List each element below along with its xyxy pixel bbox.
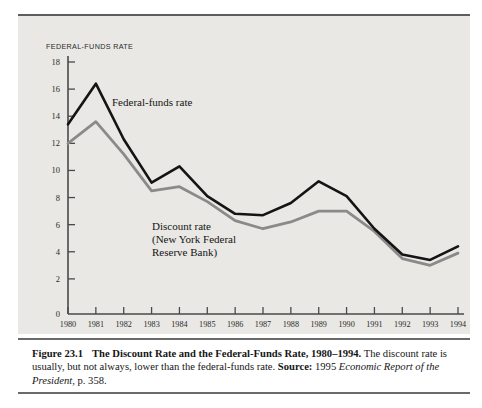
x-tick-label: 1982 bbox=[116, 320, 132, 329]
y-tick-label: 14 bbox=[52, 111, 61, 121]
x-tick-label: 1988 bbox=[283, 320, 299, 329]
x-tick-label: 1991 bbox=[366, 320, 382, 329]
x-tick-label: 1981 bbox=[88, 320, 104, 329]
x-tick-label: 1989 bbox=[311, 320, 327, 329]
y-tick-label: 6 bbox=[56, 220, 60, 230]
figure-caption-block: Figure 23.1The Discount Rate and the Fed… bbox=[18, 338, 470, 394]
x-tick-label: 1980 bbox=[60, 320, 76, 329]
series-line bbox=[68, 84, 458, 260]
plot-area: FEDERAL-FUNDS RATE 246810121416180 19801… bbox=[18, 16, 470, 334]
y-tick-label: 16 bbox=[52, 84, 61, 94]
y-axis-title-group: FEDERAL-FUNDS RATE bbox=[46, 42, 133, 51]
y-axis-ticks: 246810121416180 bbox=[52, 57, 76, 319]
x-tick-label: 1984 bbox=[171, 320, 187, 329]
discount-rate-label-line1: Discount rate bbox=[152, 220, 211, 232]
figure-title: The Discount Rate and the Federal-Funds … bbox=[92, 348, 361, 359]
chart-panel: FEDERAL-FUNDS RATE 246810121416180 19801… bbox=[18, 14, 470, 334]
y-axis-title: FEDERAL-FUNDS RATE bbox=[46, 42, 133, 51]
x-tick-label: 1986 bbox=[227, 320, 243, 329]
line-chart: FEDERAL-FUNDS RATE 246810121416180 19801… bbox=[18, 16, 470, 334]
y-tick-label: 2 bbox=[56, 274, 60, 284]
source-year: 1995 bbox=[312, 361, 338, 372]
y-tick-label: 12 bbox=[52, 138, 61, 148]
series-annotations: Federal-funds rate Discount rate (New Yo… bbox=[112, 96, 236, 259]
figure-caption-text: Figure 23.1The Discount Rate and the Fed… bbox=[32, 347, 458, 387]
discount-rate-label-line3: Reserve Bank) bbox=[152, 246, 217, 259]
x-tick-label: 1992 bbox=[394, 320, 410, 329]
source-page: , p. 358. bbox=[72, 375, 106, 386]
federal-funds-rate-label: Federal-funds rate bbox=[112, 96, 192, 108]
figure-number: Figure 23.1 bbox=[32, 348, 83, 359]
x-tick-label: 1983 bbox=[143, 320, 159, 329]
chart-series bbox=[68, 84, 458, 266]
x-tick-label: 1985 bbox=[199, 320, 215, 329]
x-tick-label: 1993 bbox=[422, 320, 438, 329]
chart-axes bbox=[68, 56, 464, 314]
x-tick-label: 1987 bbox=[255, 320, 271, 329]
x-tick-label: 1990 bbox=[338, 320, 354, 329]
figure-page: FEDERAL-FUNDS RATE 246810121416180 19801… bbox=[0, 0, 482, 408]
source-label: Source: bbox=[278, 361, 313, 372]
x-axis-ticks: 1980198119821983198419851986198719881989… bbox=[60, 307, 466, 329]
y-tick-label: 10 bbox=[52, 165, 61, 175]
x-tick-label: 1994 bbox=[450, 320, 466, 329]
y-tick-label: 0 bbox=[56, 309, 60, 319]
y-tick-label: 8 bbox=[56, 193, 60, 203]
discount-rate-label-line2: (New York Federal bbox=[152, 233, 236, 246]
y-tick-label: 4 bbox=[56, 247, 61, 257]
y-tick-label: 18 bbox=[52, 57, 61, 67]
